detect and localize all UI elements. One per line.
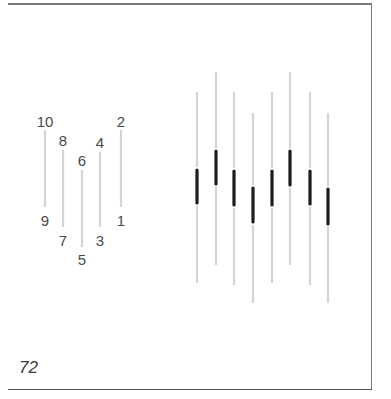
line-bottom-label: 1 (117, 212, 125, 229)
line-top-label: 6 (78, 152, 86, 169)
line-bottom-label: 5 (78, 251, 86, 268)
line-top-label: 4 (96, 134, 104, 151)
line-bottom-label: 3 (96, 232, 104, 249)
line-top-label: 2 (117, 113, 125, 130)
left-numbered-lines-group: 10987654321 (37, 113, 126, 268)
line-bottom-label: 7 (59, 232, 67, 249)
line-top-label: 8 (59, 132, 67, 149)
line-top-label: 10 (37, 113, 54, 130)
right-segmented-lines-group (197, 72, 328, 303)
page-number: 72 (19, 358, 38, 378)
line-bottom-label: 9 (41, 212, 49, 229)
illusion-figure: 10987654321 (0, 0, 391, 399)
